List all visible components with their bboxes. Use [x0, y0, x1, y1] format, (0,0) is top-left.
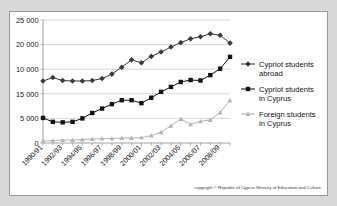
data-point-marker [188, 78, 192, 82]
legend-entry: Foreign studentsin Cyprus [241, 110, 316, 128]
data-point-marker [70, 120, 74, 124]
x-axis-tick-labels: 1990/911992/931994/951996/971998/992000/… [20, 143, 222, 168]
legend-label-line1: Foreign students [259, 110, 316, 119]
data-point-marker [60, 120, 64, 124]
data-point-marker [139, 101, 143, 105]
data-point-marker [139, 60, 145, 66]
data-point-marker [100, 106, 104, 110]
series-cypriot-students-abroad [40, 31, 233, 84]
data-point-marker [70, 78, 76, 84]
data-point-marker [129, 98, 133, 102]
data-point-marker [198, 34, 204, 40]
data-point-marker [168, 44, 174, 50]
data-point-marker [41, 116, 45, 120]
data-point-marker [80, 116, 84, 120]
legend-label-line2: in Cyprus [259, 94, 291, 103]
x-axis-tick-label: 2008/09 [197, 143, 222, 168]
data-point-marker [159, 90, 163, 94]
data-point-marker [208, 31, 214, 37]
data-point-marker [80, 78, 86, 84]
y-axis-tick-label: 20 000 [16, 40, 39, 49]
data-point-marker [218, 67, 222, 71]
series-line [43, 34, 230, 81]
data-point-marker [169, 85, 173, 89]
data-point-marker [89, 78, 95, 84]
legend-label-line2: abroad [259, 69, 283, 78]
legend-entry: Cypriot studentsabroad [241, 60, 314, 78]
data-point-marker [99, 76, 105, 82]
data-point-marker [228, 55, 232, 59]
data-series-group [40, 31, 233, 143]
data-point-marker [245, 61, 251, 67]
student-statistics-line-chart: 05 00015 00010 00020 00025 000 1990/9119… [10, 12, 327, 195]
data-point-marker [159, 130, 164, 134]
y-axis-tick-labels: 05 00015 00010 00020 00025 000 [16, 16, 39, 148]
series-cypriot-students-in-cyprus [41, 55, 232, 125]
legend-label-line2: in Cyprus [259, 119, 291, 128]
gridlines-group [43, 20, 230, 118]
y-axis-tick-label: 10 000 [16, 65, 39, 74]
data-point-marker [110, 102, 114, 106]
data-point-marker [198, 78, 202, 82]
legend-entry: Cypriot studentsin Cyprus [241, 85, 314, 103]
data-point-marker [149, 96, 153, 100]
legend-label-line1: Cypriot students [259, 60, 314, 69]
data-point-marker [50, 75, 56, 81]
chart-figure: 05 00015 00010 00020 00025 000 1990/9119… [9, 11, 328, 196]
data-point-marker [90, 111, 94, 115]
series-foreign-students-in-cyprus [41, 98, 233, 143]
data-point-marker [120, 98, 124, 102]
data-point-marker [148, 54, 154, 60]
y-axis-tick-label: 15 000 [16, 90, 39, 99]
data-point-marker [51, 120, 55, 124]
data-point-marker [158, 49, 164, 55]
data-point-marker [60, 78, 66, 84]
chart-legend: Cypriot studentsabroadCypriot studentsin… [241, 60, 316, 128]
legend-label-line1: Cypriot students [259, 85, 314, 94]
y-axis-tick-label: 5 000 [20, 114, 39, 123]
data-point-marker [188, 36, 194, 42]
data-point-marker [179, 80, 183, 84]
data-point-marker [246, 87, 250, 91]
data-point-marker [208, 73, 212, 77]
data-point-marker [228, 98, 233, 102]
data-point-marker [40, 78, 46, 84]
y-axis-tick-label: 25 000 [16, 16, 39, 25]
copyright-notice: copyright © Republic of Cyprus Ministry … [195, 185, 322, 190]
series-line [43, 57, 230, 122]
